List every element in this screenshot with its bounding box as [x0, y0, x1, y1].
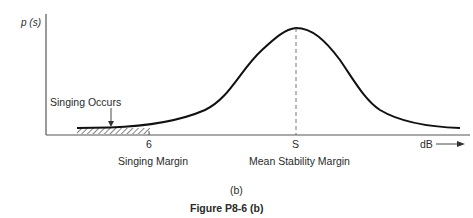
singing-margin-label: Singing Margin: [118, 155, 188, 167]
subfigure-label: (b): [230, 184, 243, 196]
x-axis-unit-label: dB: [420, 138, 433, 150]
mean-stability-margin-label: Mean Stability Margin: [249, 155, 350, 167]
figure-caption: Figure P8-6 (b): [190, 202, 264, 214]
y-axis-label: p (s): [21, 17, 41, 28]
singing-occurs-label: Singing Occurs: [50, 96, 121, 108]
density-curve: [77, 28, 460, 128]
tick-label-s: S: [292, 138, 299, 150]
singing-region-hatch: [77, 128, 150, 134]
db-arrow-head-icon: [457, 141, 465, 147]
singing-arrow-head-icon: [108, 121, 114, 127]
tick-label-6: 6: [146, 138, 152, 150]
